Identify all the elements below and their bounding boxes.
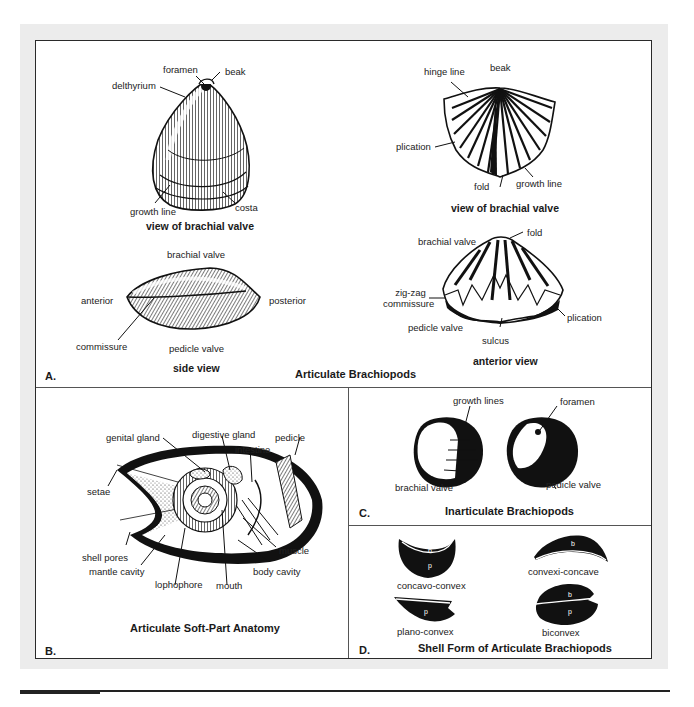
label-digestive-gland: digestive gland xyxy=(192,429,255,440)
label-posterior: posterior xyxy=(269,295,306,306)
bottom-rule xyxy=(20,690,670,692)
shell-brachial-valve-left xyxy=(153,79,250,210)
plano-p: p xyxy=(424,608,428,616)
panel-letter-d: D. xyxy=(359,644,370,656)
label-brachial-valve-side: brachial valve xyxy=(167,249,225,260)
shell-anterior-view xyxy=(443,237,563,324)
panel-title-c: Inarticulate Brachiopods xyxy=(445,505,574,517)
label-pedicle: pedicle xyxy=(275,432,305,443)
label-sulcus: sulcus xyxy=(482,335,509,346)
label-zigzag: zig-zag xyxy=(383,287,438,298)
label-brachial-valve-anterior: brachial valve xyxy=(418,236,476,247)
convexi-b: b xyxy=(571,540,575,547)
label-pedicle-valve-anterior: pedicle valve xyxy=(408,322,463,333)
label-setae: setae xyxy=(87,486,110,497)
label-growth-lines: growth lines xyxy=(453,395,504,406)
label-plano-convex: plano-convex xyxy=(397,626,454,637)
concavo-p: p xyxy=(428,562,432,570)
label-shell-pores: shell pores xyxy=(82,552,128,563)
caption-brachial-view-right: view of brachial valve xyxy=(451,202,559,214)
label-lophophore: lophophore xyxy=(155,579,203,590)
label-body-cavity: body cavity xyxy=(253,566,301,577)
label-muscle: muscle xyxy=(279,545,309,556)
label-foramen-c: foramen xyxy=(560,396,595,407)
concavo-b: b xyxy=(428,547,432,554)
inarticulate-brachial-valve xyxy=(414,417,483,487)
label-fold-anterior: fold xyxy=(527,227,542,238)
label-pedicle-valve-side: pedicle valve xyxy=(169,343,224,354)
label-commissure: commissure xyxy=(76,341,127,352)
caption-anterior-view: anterior view xyxy=(473,355,538,367)
panel-title-a: Articulate Brachiopods xyxy=(295,368,416,380)
label-concavo-convex: concavo-convex xyxy=(397,580,466,591)
shell-brachial-valve-right xyxy=(444,88,555,177)
label-hinge-line: hinge line xyxy=(424,66,465,77)
panel-title-b: Articulate Soft-Part Anatomy xyxy=(130,622,280,634)
label-mouth: mouth xyxy=(216,580,242,591)
label-foramen: foramen xyxy=(163,64,198,75)
label-costa: costa xyxy=(235,202,258,213)
panel-title-d: Shell Form of Articulate Brachiopods xyxy=(418,642,612,654)
label-growth-line-right: growth line xyxy=(516,178,562,189)
label-brachial-valve-c: brachial valve xyxy=(395,482,453,493)
label-beak-right: beak xyxy=(490,62,511,73)
label-beak: beak xyxy=(225,66,246,77)
form-biconvex xyxy=(536,584,598,625)
biconvex-p: p xyxy=(568,608,572,616)
label-biconvex: biconvex xyxy=(542,627,580,638)
illustrations: b p b p b p xyxy=(0,0,694,707)
panel-letter-b: B. xyxy=(45,645,56,657)
label-plication: plication xyxy=(396,141,431,152)
form-concavo-convex xyxy=(399,539,456,578)
label-pedicle-valve-c: pedicle valve xyxy=(546,479,601,490)
inarticulate-pedicle-valve xyxy=(507,417,578,487)
shell-side-view xyxy=(127,268,260,329)
label-intestine: intestine xyxy=(235,444,270,455)
label-delthyrium: delthyrium xyxy=(112,80,156,91)
caption-side-view: side view xyxy=(173,362,220,374)
caption-brachial-view-left: view of brachial valve xyxy=(146,220,254,232)
label-fold: fold xyxy=(474,181,489,192)
label-zigzag-commissure: commissure xyxy=(383,298,434,309)
label-mantle-cavity: mantle cavity xyxy=(89,566,144,577)
label-genital-gland: genital gland xyxy=(106,432,160,443)
biconvex-b: b xyxy=(568,591,572,598)
label-growth-line: growth line xyxy=(130,206,176,217)
panel-letter-a: A. xyxy=(45,370,56,382)
bottom-rule-tab xyxy=(20,690,100,694)
panel-letter-c: C. xyxy=(359,507,370,519)
label-convexi-concave: convexi-concave xyxy=(528,566,599,577)
label-plication-anterior: plication xyxy=(567,312,602,323)
label-anterior: anterior xyxy=(81,295,113,306)
